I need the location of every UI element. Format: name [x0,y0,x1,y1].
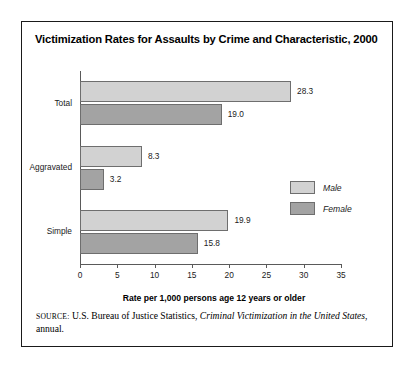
legend-swatch-male-icon [290,181,315,194]
x-tick-mark-0 [80,264,81,268]
x-tick-label-35: 35 [329,270,353,280]
bar-simple-female [80,233,198,254]
x-tick-mark-15 [192,264,193,268]
bar-aggravated-female [80,169,104,190]
legend-swatch-female-icon [290,202,315,215]
bar-simple-male [80,210,228,231]
bar-value-total-male: 28.3 [297,86,313,96]
x-tick-mark-10 [155,264,156,268]
x-tick-label-30: 30 [292,270,316,280]
legend-label-male: Male [323,183,342,193]
x-tick-label-15: 15 [180,270,204,280]
x-tick-label-5: 5 [105,270,129,280]
x-tick-mark-5 [117,264,118,268]
bar-total-male [80,81,291,102]
bar-value-simple-female: 15.8 [204,238,220,248]
bar-value-aggravated-male: 8.3 [148,151,160,161]
page-title: Victimization Rates for Assaults by Crim… [35,33,383,45]
source-note: SOURCE: U.S. Bureau of Justice Statistic… [36,310,372,336]
x-tick-mark-20 [229,264,230,268]
bar-value-simple-male: 19.9 [234,215,250,225]
x-tick-label-25: 25 [254,270,278,280]
x-tick-label-0: 0 [68,270,92,280]
legend-label-female: Female [323,204,352,214]
x-tick-label-10: 10 [143,270,167,280]
category-label-aggravated: Aggravated [0,162,72,172]
x-tick-mark-25 [266,264,267,268]
plot-area: 28.319.0Total8.33.2Aggravated19.915.8Sim… [80,71,341,264]
category-label-total: Total [0,98,72,108]
category-label-simple: Simple [0,226,72,236]
x-tick-label-20: 20 [217,270,241,280]
bar-value-aggravated-female: 3.2 [110,174,122,184]
x-tick-mark-30 [304,264,305,268]
source-label: SOURCE: [36,312,69,321]
bar-aggravated-male [80,146,142,167]
x-axis-line [80,264,342,265]
bar-total-female [80,104,222,125]
bar-value-total-female: 19.0 [228,109,244,119]
source-text-before: U.S. Bureau of Justice Statistics, [69,310,199,321]
x-tick-mark-35 [341,264,342,268]
source-publication: Criminal Victimization in the United Sta… [200,310,365,321]
figure-frame: Victimization Rates for Assaults by Crim… [21,21,393,347]
x-axis-title: Rate per 1,000 persons age 12 years or o… [80,293,348,303]
